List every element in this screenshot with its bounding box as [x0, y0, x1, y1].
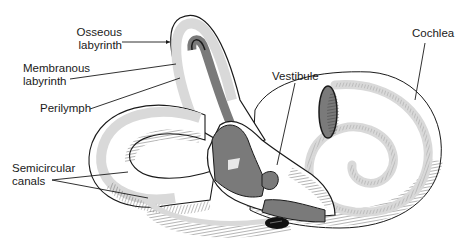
label-membranous-labyrinth: Membranous labyrinth: [23, 62, 90, 88]
label-osseous-labyrinth: Osseous labyrinth: [70, 26, 122, 52]
label-semicircular-canals: Semicircular canals: [12, 162, 75, 188]
arrowhead-icon: [166, 40, 170, 44]
label-vestibule: Vestibule: [272, 70, 319, 83]
label-perilymph: Perilymph: [40, 102, 91, 115]
posterior-canal: [89, 105, 215, 210]
label-cochlea: Cochlea: [412, 27, 454, 40]
